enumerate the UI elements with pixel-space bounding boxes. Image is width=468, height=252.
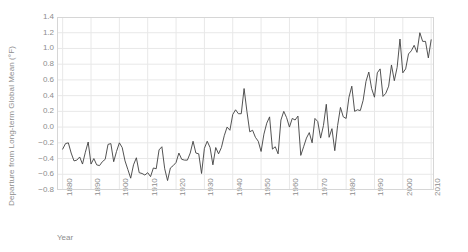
y-tick-label: 0.4 (14, 92, 54, 100)
y-tick-label: −0.8 (14, 186, 54, 194)
y-tick-label: −0.2 (14, 139, 54, 147)
plot-area (57, 17, 434, 190)
temperature-anomaly-chart: Departure from Long-term Global Mean (°F… (0, 0, 468, 252)
y-tick-label: 0.8 (14, 60, 54, 68)
y-tick-label: 1.4 (14, 13, 54, 21)
y-tick-label: −0.6 (14, 170, 54, 178)
chart-canvas (57, 17, 434, 190)
y-tick-label: 0.0 (14, 123, 54, 131)
y-tick-label: 1.2 (14, 29, 54, 37)
x-tick-label: 2010 (434, 178, 442, 196)
y-tick-label: 0.2 (14, 107, 54, 115)
y-tick-label: −0.4 (14, 155, 54, 163)
y-tick-label: 1.0 (14, 44, 54, 52)
y-tick-label: 0.6 (14, 76, 54, 84)
x-axis-title: Year (57, 233, 73, 242)
